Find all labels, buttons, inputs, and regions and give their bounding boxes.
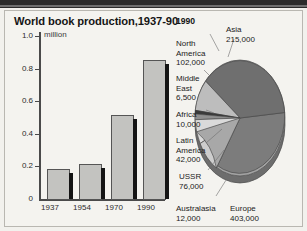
- pie-label-asia-value: 215,000: [226, 35, 270, 44]
- pie-chart-panel: 1990: [172, 0, 307, 231]
- y-axis-label-2: 0.8: [22, 64, 33, 73]
- y-axis-label-1: 1.0: [22, 31, 33, 40]
- y-axis-label-4: 0.4: [22, 129, 33, 138]
- pie-label-europe-value: 403,000: [230, 214, 282, 223]
- bar-shadow: [101, 168, 105, 199]
- bar-1970: [111, 115, 134, 200]
- x-axis-label-1970: 1970: [99, 203, 129, 212]
- y-axis-label-6: 0: [29, 194, 33, 203]
- y-axis-label-3: 0.6: [22, 96, 33, 105]
- x-axis-label-1937: 1937: [35, 203, 65, 212]
- pie-label-africa-name: Africa: [176, 110, 196, 119]
- y-axis-label-5: 0.2: [22, 161, 33, 170]
- bar-plot-area: [39, 36, 164, 200]
- pie-label-australasia-name: Australasia: [176, 204, 216, 213]
- pie-label-asia: Asia 215,000: [226, 16, 270, 53]
- pie-label-north-america-name: North America: [176, 39, 205, 57]
- pie-label-latin-america-name: Latin America: [176, 136, 205, 154]
- x-axis-label-1990: 1990: [131, 203, 161, 212]
- pie-label-europe-name: Europe: [230, 204, 256, 213]
- pie-label-middle-east-name: Middle East: [176, 74, 200, 92]
- bar-1954: [79, 164, 102, 200]
- x-axis-label-1954: 1954: [67, 203, 97, 212]
- pie-label-europe: Europe 403,000: [230, 195, 282, 231]
- bar-shadow: [69, 173, 73, 199]
- pie-label-australasia-value: 12,000: [176, 214, 228, 223]
- pie-label-asia-name: Asia: [226, 25, 242, 34]
- bar-shadow: [165, 64, 169, 199]
- bar-shadow: [133, 119, 137, 199]
- figure-root: World book production,1937-90 million 1.…: [0, 0, 307, 231]
- pie-label-australasia: Australasia 12,000: [176, 195, 228, 231]
- bar-chart: 1.0 0.8 0.6 0.4 0.2 0: [0, 0, 175, 231]
- bar-1990: [143, 60, 166, 200]
- bar-1937: [47, 169, 70, 200]
- pie-label-ussr-name: USSR: [179, 172, 201, 181]
- pie-label-ussr-value: 76,000: [179, 182, 223, 191]
